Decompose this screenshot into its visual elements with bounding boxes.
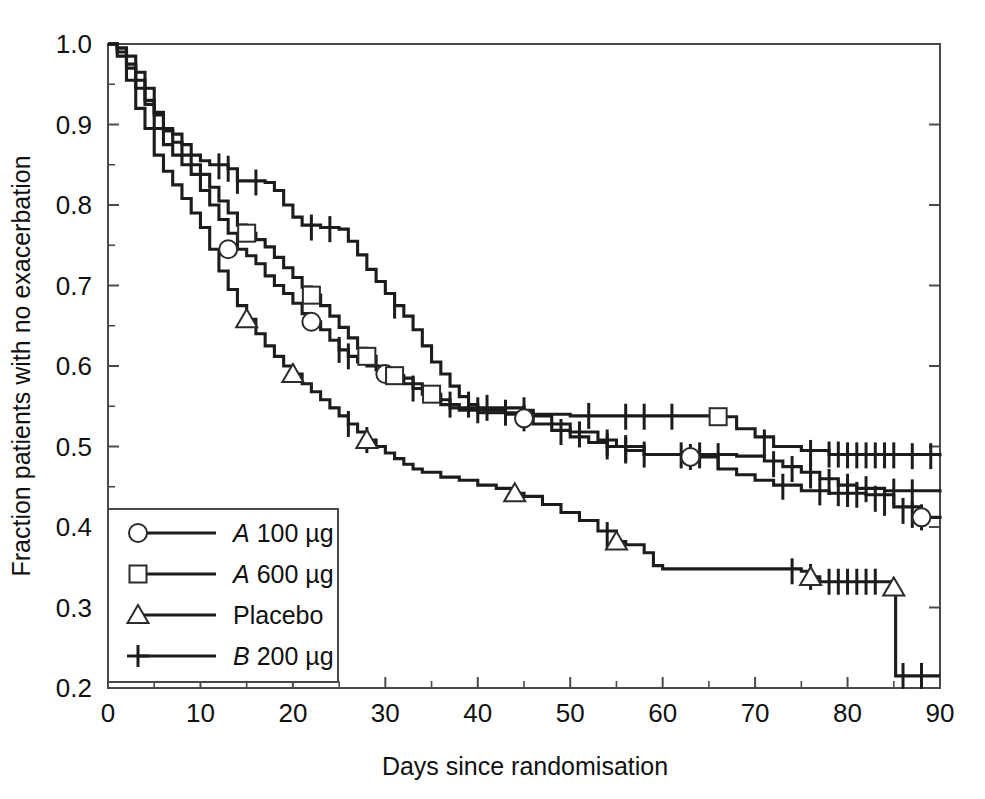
- square-marker: [303, 287, 320, 304]
- circle-marker: [681, 448, 699, 466]
- y-tick-label: 0.6: [56, 351, 92, 381]
- legend-label-4: B 200 µg: [233, 642, 334, 670]
- y-tick-label: 0.4: [56, 512, 92, 542]
- square-marker: [130, 566, 147, 583]
- square-marker: [386, 367, 403, 384]
- x-tick-label: 80: [833, 698, 862, 728]
- legend-label-3: Placebo: [233, 601, 323, 629]
- y-axis-title: Fraction patients with no exacerbation: [7, 155, 35, 576]
- y-tick-label: 0.7: [56, 271, 92, 301]
- y-tick-label: 0.9: [56, 110, 92, 140]
- x-tick-label: 30: [371, 698, 400, 728]
- circle-marker: [515, 409, 533, 427]
- survival-plot-svg: 01020304050607080900.20.30.40.50.60.70.8…: [0, 0, 985, 799]
- x-tick-label: 0: [101, 698, 115, 728]
- y-tick-label: 0.8: [56, 190, 92, 220]
- square-marker: [238, 225, 255, 242]
- square-marker: [423, 386, 440, 403]
- x-tick-label: 40: [463, 698, 492, 728]
- y-tick-label: 1.0: [56, 29, 92, 59]
- legend-label-1: A 100 µg: [231, 519, 334, 547]
- circle-marker: [913, 508, 931, 526]
- square-marker: [358, 348, 375, 365]
- x-tick-label: 90: [926, 698, 955, 728]
- legend-label-2: A 600 µg: [231, 560, 334, 588]
- circle-marker: [129, 524, 147, 542]
- square-marker: [710, 408, 727, 425]
- x-axis-title: Days since randomisation: [382, 752, 668, 780]
- circle-marker: [302, 313, 320, 331]
- x-tick-label: 70: [741, 698, 770, 728]
- x-tick-label: 60: [648, 698, 677, 728]
- y-tick-label: 0.5: [56, 432, 92, 462]
- kaplan-meier-figure: 01020304050607080900.20.30.40.50.60.70.8…: [0, 0, 985, 799]
- y-tick-label: 0.2: [56, 673, 92, 703]
- x-tick-label: 10: [186, 698, 215, 728]
- y-tick-label: 0.3: [56, 593, 92, 623]
- x-tick-label: 20: [278, 698, 307, 728]
- legend-group: A 100 µgA 600 µgPlaceboB 200 µg: [108, 509, 338, 682]
- x-tick-label: 50: [556, 698, 585, 728]
- circle-marker: [219, 240, 237, 258]
